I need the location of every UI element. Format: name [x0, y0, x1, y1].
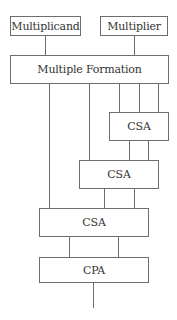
connector-mf-to-csa3 — [49, 84, 50, 208]
csa-box-2: CSA — [79, 160, 159, 189]
multiplier-label: Multiplier — [107, 20, 161, 33]
multiplicand-label: Multiplicand — [11, 20, 79, 33]
multiplier-block-diagram: Multiplicand Multiplier Multiple Formati… — [0, 0, 177, 320]
cpa-box: CPA — [39, 257, 149, 283]
csa-2-label: CSA — [107, 168, 130, 181]
connector-csa2-to-csa3-b — [134, 189, 135, 208]
connector-csa2-to-csa3-a — [104, 189, 105, 208]
csa-3-label: CSA — [82, 216, 105, 229]
connector-mf-to-csa1-b — [139, 84, 140, 112]
multiple-formation-label: Multiple Formation — [37, 63, 141, 76]
connector-mf-to-csa1-c — [158, 84, 159, 112]
connector-csa3-to-cpa-b — [118, 237, 119, 257]
connector-mf-to-csa2 — [89, 84, 90, 160]
multiple-formation-box: Multiple Formation — [10, 55, 169, 84]
connector-csa3-to-cpa-a — [69, 237, 70, 257]
connector-multiplicand-to-mf — [45, 36, 46, 55]
connector-cpa-output — [93, 283, 94, 308]
connector-multiplier-to-mf — [134, 36, 135, 55]
csa-1-label: CSA — [127, 120, 150, 133]
csa-box-1: CSA — [109, 112, 169, 141]
connector-csa1-to-csa2-b — [148, 141, 149, 160]
csa-box-3: CSA — [39, 208, 149, 237]
connector-mf-to-csa1-a — [119, 84, 120, 112]
cpa-label: CPA — [83, 264, 105, 277]
connector-csa1-to-csa2-a — [129, 141, 130, 160]
multiplicand-box: Multiplicand — [10, 16, 81, 36]
multiplier-box: Multiplier — [100, 16, 168, 36]
